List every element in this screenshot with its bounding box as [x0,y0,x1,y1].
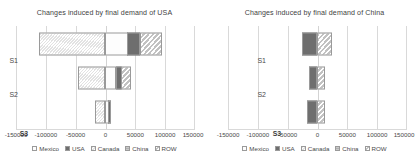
bar-segment-row [317,100,325,123]
legend-label-canada: Canada [308,145,330,152]
bar-row-s1-china [228,61,407,94]
legend-item-china[interactable]: China [125,145,148,152]
legend-item-usa[interactable]: USA [65,145,85,152]
legend-swatch-canada [91,146,96,151]
x-tick-150000: 150000 [183,131,204,138]
legend-label-china: China [132,145,148,152]
stacked-bar [39,32,162,55]
legend-item-row[interactable]: ROW [365,145,387,152]
x-tick-150000: 150000 [394,131,415,138]
legend-swatch-usa [275,146,280,151]
x-axis-line-usa [16,129,195,130]
legend-item-usa[interactable]: USA [275,145,295,152]
legend-item-mexico[interactable]: Mexico [242,145,269,152]
legend-label-row: ROW [162,145,177,152]
bar-segment-usa [108,100,110,123]
legend-label-mexico: Mexico [249,145,269,152]
x-tick--150000: -150000 [217,131,240,138]
plot-area-china [228,26,407,129]
chart-title-china: Changes induced by final demand of China [210,9,419,17]
category-label-s1: S1 [246,57,266,64]
bar-segment-row [121,66,131,89]
bar-row-s1-usa [16,61,195,94]
legend-item-row[interactable]: ROW [155,145,177,152]
legend-swatch-china [335,146,340,151]
legend-swatch-row [365,146,370,151]
bar-segment-usa [127,32,140,55]
legend-item-china[interactable]: China [335,145,358,152]
legend-china: Mexico USA Canada China ROW [210,145,419,152]
category-label-s1: S1 [0,57,18,64]
stacked-bar [307,100,324,123]
plot-area-usa [16,26,195,129]
legend-swatch-row [155,146,160,151]
stacked-bar [309,66,325,89]
x-tick-50000: 50000 [127,131,144,138]
chart-panel-usa: Changes induced by final demand of USA [0,0,209,164]
bar-row-s2-china [228,95,407,128]
chart-title-usa: Changes induced by final demand of USA [0,9,209,17]
stacked-bar [302,32,331,55]
legend-swatch-mexico [32,146,37,151]
legend-usa: Mexico USA Canada China ROW [0,145,209,152]
x-tick--50000: -50000 [66,131,85,138]
bar-row-s3-usa [16,27,195,60]
legend-swatch-canada [301,146,306,151]
legend-item-mexico[interactable]: Mexico [32,145,59,152]
legend-swatch-china [125,146,130,151]
legend-label-usa: USA [282,145,295,152]
x-axis-line-china [228,129,407,130]
legend-label-row: ROW [372,145,387,152]
category-label-s2: S2 [0,91,18,98]
bar-row-s2-usa [16,95,195,128]
legend-label-usa: USA [72,145,85,152]
legend-swatch-mexico [242,146,247,151]
bar-segment-canada [78,66,106,89]
bar-segment-row [317,32,332,55]
bar-segment-canada [39,32,106,55]
two-panel-stacked-bar-figure: Changes induced by final demand of USA [0,0,419,164]
x-tick-0: 0 [104,131,107,138]
bar-segment-row [140,32,163,55]
stacked-bar [95,100,110,123]
category-label-s2: S2 [246,91,266,98]
category-label-s3: S3 [20,130,28,137]
x-tick--50000: -50000 [278,131,297,138]
x-tick-100000: 100000 [155,131,176,138]
x-tick--100000: -100000 [246,131,269,138]
bar-segment-mexico [105,66,117,89]
bar-row-s3-china [228,27,407,60]
chart-panel-china: Changes induced by final demand of China [210,0,419,164]
x-tick-50000: 50000 [339,131,356,138]
legend-item-canada[interactable]: Canada [91,145,120,152]
x-tick-100000: 100000 [367,131,388,138]
bar-segment-mexico [105,32,128,55]
legend-label-china: China [342,145,358,152]
x-tick--100000: -100000 [34,131,57,138]
legend-swatch-usa [65,146,70,151]
bar-segment-row [317,66,325,89]
bar-segment-usa [302,32,318,55]
legend-label-canada: Canada [98,145,120,152]
legend-item-canada[interactable]: Canada [301,145,330,152]
stacked-bar [78,66,131,89]
x-tick-0: 0 [316,131,319,138]
legend-label-mexico: Mexico [39,145,59,152]
